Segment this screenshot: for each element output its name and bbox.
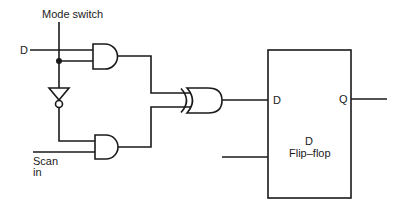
d-flip-flop-box bbox=[268, 50, 351, 198]
and2-output-wire bbox=[118, 107, 194, 147]
inverter-bubble bbox=[56, 101, 63, 108]
scan-in-label-line2: in bbox=[33, 167, 42, 178]
or-gate bbox=[187, 88, 222, 113]
ff-q-pin-label: Q bbox=[339, 94, 348, 105]
inverter-output-wire bbox=[59, 108, 95, 142]
inverter-gate bbox=[49, 88, 69, 100]
ff-name-line2: Flip–flop bbox=[289, 148, 331, 159]
ff-name-line1: D bbox=[305, 136, 313, 147]
and-gate-1 bbox=[93, 44, 117, 69]
and-gate-2 bbox=[95, 135, 118, 159]
d-input-label: D bbox=[20, 45, 28, 56]
mode-switch-label: Mode switch bbox=[42, 9, 103, 20]
ff-d-pin-label: D bbox=[273, 95, 281, 106]
and1-output-wire bbox=[118, 56, 195, 93]
or-gate-back-curve bbox=[181, 89, 187, 113]
circuit-diagram bbox=[0, 0, 410, 211]
